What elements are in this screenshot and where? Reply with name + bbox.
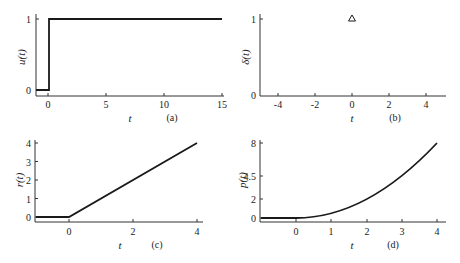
x-tick-label: 1 — [329, 226, 334, 237]
y-axis-label: r(t) — [13, 172, 26, 187]
x-tick-label: 4 — [435, 226, 440, 237]
y-tick-label: 4 — [26, 138, 31, 149]
x-tick-label: 0 — [294, 226, 299, 237]
y-tick-label: 1 — [251, 14, 256, 25]
panel-label: (b) — [389, 112, 401, 124]
parabola-curve — [261, 143, 437, 218]
x-tick-label: -4 — [274, 99, 282, 110]
x-tick-label: 15 — [217, 99, 227, 110]
panel-label: (c) — [151, 239, 162, 251]
y-axis-label: u(t) — [15, 49, 28, 65]
panel-b: 1 0 -4 -2 0 2 4 t (b) δ(t) — [239, 14, 446, 124]
y-axis-label: p(t) — [236, 172, 249, 189]
panel-c: 4 3 2 1 0 0 2 4 t (c) r(t) — [13, 138, 203, 251]
panel-label: (d) — [387, 239, 399, 251]
y-tick-label: 0 — [26, 212, 31, 223]
x-tick-label: 2 — [387, 99, 392, 110]
ramp-curve — [36, 143, 197, 217]
y-tick-label: 1 — [26, 14, 31, 25]
panel-label: (a) — [166, 112, 177, 124]
y-tick-label: 1 — [26, 194, 31, 205]
panel-d: 8 4.5 2 0 0 1 2 3 4 t (d) p(t) — [236, 138, 446, 251]
x-tick-label: 4 — [424, 99, 429, 110]
x-tick-label: -2 — [311, 99, 319, 110]
x-tick-label: 0 — [350, 99, 355, 110]
x-axis-label: t — [128, 112, 132, 124]
y-tick-label: 2 — [251, 194, 256, 205]
x-axis-label: t — [350, 239, 354, 251]
x-tick-label: 0 — [67, 226, 72, 237]
x-tick-label: 0 — [46, 99, 51, 110]
y-tick-label: 3 — [26, 157, 31, 168]
x-tick-label: 3 — [400, 226, 405, 237]
y-tick-label: 0 — [251, 90, 256, 101]
y-tick-label: 8 — [251, 138, 256, 149]
x-tick-label: 5 — [104, 99, 109, 110]
x-tick-label: 2 — [365, 226, 370, 237]
y-tick-label: 0 — [26, 85, 31, 96]
step-curve — [36, 19, 222, 90]
y-tick-label: 2 — [26, 175, 31, 186]
x-tick-label: 2 — [131, 226, 136, 237]
x-tick-label: 4 — [195, 226, 200, 237]
impulse-triangle-marker — [349, 15, 356, 21]
figure: 1 0 0 5 10 15 t (a) u(t) 1 0 -4 -2 0 2 4… — [0, 0, 460, 263]
x-axis-label: t — [350, 112, 354, 124]
panel-a: 1 0 0 5 10 15 t (a) u(t) — [15, 14, 227, 124]
x-tick-label: 10 — [159, 99, 169, 110]
y-axis-label: δ(t) — [239, 49, 252, 65]
x-axis-label: t — [118, 239, 122, 251]
y-tick-label: 0 — [251, 213, 256, 224]
